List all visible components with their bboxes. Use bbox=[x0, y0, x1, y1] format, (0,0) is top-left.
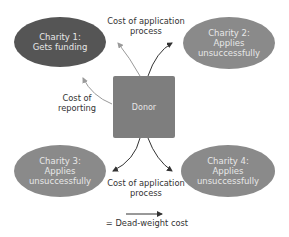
node-charity4: Charity 4:Appliesunsuccessfully bbox=[181, 145, 275, 197]
node-charity3: Charity 3:Appliesunsuccessfully bbox=[14, 145, 106, 197]
label-left-line1: Cost of bbox=[52, 93, 102, 103]
donor-box: Donor bbox=[113, 76, 175, 138]
charity2-status2: unsuccessfully bbox=[198, 48, 260, 58]
charity3-status2: unsuccessfully bbox=[29, 176, 91, 186]
legend-text: = Dead-weight cost bbox=[102, 218, 192, 228]
arrow-deadweight-charity4 bbox=[148, 138, 172, 171]
charity4-status2: unsuccessfully bbox=[197, 176, 259, 186]
charity3-title: Charity 3: bbox=[29, 156, 91, 166]
label-bottom-line2: process bbox=[100, 188, 192, 198]
node-charity2: Charity 2:Appliesunsuccessfully bbox=[183, 17, 275, 69]
label-top-line2: process bbox=[100, 26, 192, 36]
charity1-title: Charity 1: bbox=[33, 32, 88, 42]
arrow-deadweight-charity2 bbox=[148, 43, 172, 76]
arrow-application-charity1 bbox=[118, 43, 140, 76]
label-bottom-application-cost: Cost of application process bbox=[100, 178, 192, 198]
label-top-application-cost: Cost of application process bbox=[100, 16, 192, 36]
charity2-title: Charity 2: bbox=[198, 28, 260, 38]
donor-label: Donor bbox=[132, 103, 156, 112]
label-reporting-cost: Cost of reporting bbox=[52, 93, 102, 113]
label-top-line1: Cost of application bbox=[100, 16, 192, 26]
charity3-status: Applies bbox=[29, 166, 91, 176]
charity4-title: Charity 4: bbox=[197, 156, 259, 166]
arrow-deadweight-charity3 bbox=[113, 138, 140, 171]
charity2-status: Applies bbox=[198, 38, 260, 48]
charity4-status: Applies bbox=[197, 166, 259, 176]
node-charity1: Charity 1:Gets funding bbox=[14, 17, 106, 67]
charity1-status: Gets funding bbox=[33, 42, 88, 52]
label-left-line2: reporting bbox=[52, 103, 102, 113]
label-bottom-line1: Cost of application bbox=[100, 178, 192, 188]
